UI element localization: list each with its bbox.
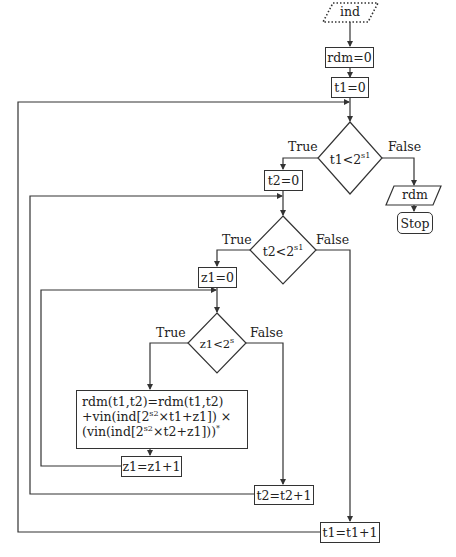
- decision-z1-label: z1<2s: [200, 337, 234, 351]
- d3-false-label: False: [250, 325, 283, 340]
- inc-t1-box: t1=t1+1: [320, 522, 380, 543]
- d3-true-label: True: [156, 325, 186, 340]
- stop-node: Stop: [397, 212, 433, 234]
- init-t1-label: t1=0: [334, 80, 365, 95]
- start-node-label: ind: [340, 4, 360, 19]
- d2-true-label: True: [222, 232, 252, 247]
- init-t1-box: t1=0: [331, 77, 369, 98]
- d1-false-label: False: [388, 139, 421, 154]
- init-rdm-box: rdm=0: [325, 47, 374, 68]
- update-line-2: +vin(ind[2s2×t1+z1]) ×: [82, 409, 231, 424]
- init-t2-label: t2=0: [268, 173, 299, 188]
- update-rdm-box: rdm(t1,t2)=rdm(t1,t2) +vin(ind[2s2×t1+z1…: [76, 390, 248, 449]
- inc-z1-box: z1=z1+1: [121, 456, 182, 477]
- update-line-3: (vin(ind[2s2×t2+z1]))*: [82, 424, 220, 439]
- output-node-label: rdm: [402, 187, 428, 202]
- inc-t2-box: t2=t2+1: [254, 485, 314, 505]
- decision-t1-label: t1<2s1: [330, 152, 371, 167]
- init-z1-label: z1=0: [201, 270, 234, 285]
- d1-true-label: True: [288, 139, 318, 154]
- inc-z1-label: z1=z1+1: [123, 459, 181, 474]
- inc-t1-label: t1=t1+1: [323, 525, 378, 540]
- init-rdm-label: rdm=0: [327, 50, 371, 65]
- stop-label: Stop: [400, 216, 429, 231]
- decision-t2-label: t2<2s1: [263, 244, 304, 259]
- update-line-1: rdm(t1,t2)=rdm(t1,t2): [82, 394, 224, 409]
- init-t2-box: t2=0: [264, 170, 303, 191]
- d2-false-label: False: [316, 232, 349, 247]
- init-z1-box: z1=0: [198, 267, 237, 288]
- inc-t2-label: t2=t2+1: [257, 488, 312, 503]
